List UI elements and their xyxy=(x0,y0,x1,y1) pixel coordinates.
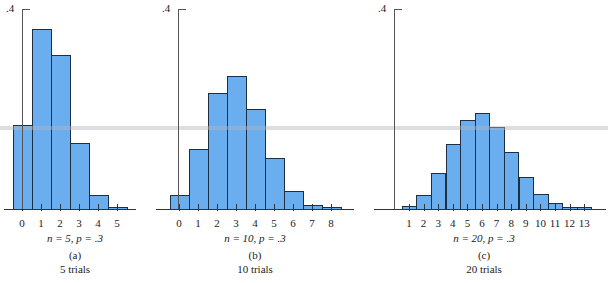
histogram-bar xyxy=(70,143,90,210)
histogram-bar xyxy=(208,93,228,211)
x-tick-label: 2 xyxy=(50,217,70,229)
y-tick-label: .4 xyxy=(378,2,386,14)
x-tick-label: 5 xyxy=(264,217,284,229)
x-tick-label: 6 xyxy=(283,217,303,229)
y-tick xyxy=(22,9,30,10)
x-axis xyxy=(374,209,606,210)
histogram-bar xyxy=(227,76,247,211)
panel-subtitle: 20 trials xyxy=(360,262,608,276)
y-tick-label: .4 xyxy=(162,2,170,14)
chart-panel-b: .4 n = 10, p = .3 (b) 10 trials 01234567… xyxy=(150,0,360,283)
y-axis xyxy=(394,9,395,210)
panel-subtitle: 5 trials xyxy=(0,262,150,276)
histogram-bar xyxy=(265,158,285,211)
panel-label: (c) xyxy=(360,248,608,262)
histogram-bar xyxy=(51,55,71,211)
parameter-label: n = 5, p = .3 xyxy=(0,231,150,245)
panel-label: (b) xyxy=(150,248,360,262)
x-tick-label: 3 xyxy=(226,217,246,229)
x-tick-label: 5 xyxy=(107,217,127,229)
parameter-label: n = 10, p = .3 xyxy=(150,231,360,245)
caption: n = 5, p = .3 (a) 5 trials xyxy=(0,231,150,276)
x-tick-label: 4 xyxy=(245,217,265,229)
panel-label: (a) xyxy=(0,248,150,262)
histogram-bar xyxy=(504,152,520,210)
histogram-bar xyxy=(489,127,505,210)
x-tick-label: 0 xyxy=(12,217,32,229)
x-axis xyxy=(156,209,354,210)
caption: n = 20, p = .3 (c) 20 trials xyxy=(360,231,608,276)
caption: n = 10, p = .3 (b) 10 trials xyxy=(150,231,360,276)
x-tick-label: 13 xyxy=(574,217,594,229)
y-tick xyxy=(394,9,402,10)
x-tick-label: 1 xyxy=(188,217,208,229)
histogram-bar xyxy=(32,29,52,210)
histogram-bar xyxy=(475,113,491,210)
y-axis xyxy=(178,9,179,210)
histogram-bar xyxy=(446,144,462,210)
histogram-bar xyxy=(460,120,476,211)
x-tick-label: 2 xyxy=(207,217,227,229)
chart-panel-c: .4 n = 20, p = .3 (c) 20 trials 12345678… xyxy=(360,0,608,283)
x-axis xyxy=(4,209,136,210)
x-tick-label: 7 xyxy=(302,217,322,229)
x-tick-label: 0 xyxy=(169,217,189,229)
x-tick-label: 4 xyxy=(88,217,108,229)
y-axis xyxy=(22,9,23,210)
panel-subtitle: 10 trials xyxy=(150,262,360,276)
x-tick-label: 1 xyxy=(31,217,51,229)
y-tick-label: .4 xyxy=(6,2,14,14)
parameter-label: n = 20, p = .3 xyxy=(360,231,608,245)
chart-panel-a: .4 n = 5, p = .3 (a) 5 trials 012345 xyxy=(0,0,150,283)
histogram-bar xyxy=(189,149,209,211)
y-tick xyxy=(178,9,186,10)
x-tick-label: 3 xyxy=(69,217,89,229)
histogram-bar xyxy=(246,109,266,210)
x-tick-label: 8 xyxy=(321,217,341,229)
